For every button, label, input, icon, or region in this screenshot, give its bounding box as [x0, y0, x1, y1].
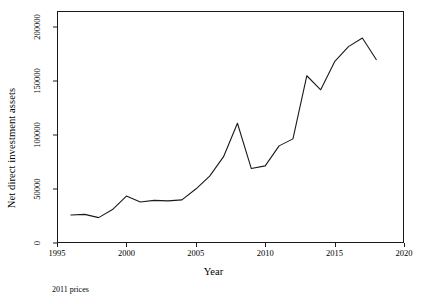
x-axis-label: Year	[0, 266, 427, 277]
chart-figure: Net direct investment assets 19952000200…	[0, 0, 427, 304]
x-tick-label: 1995	[49, 248, 66, 258]
x-tick-mark	[196, 243, 197, 247]
x-tick-mark	[404, 243, 405, 247]
chart-note: 2011 prices	[52, 285, 89, 294]
x-tick-label: 2000	[118, 248, 135, 258]
y-tick-label: 50000	[22, 184, 52, 194]
x-tick-label: 2015	[326, 248, 343, 258]
y-tick-mark	[53, 243, 57, 244]
x-tick-mark	[126, 243, 127, 247]
x-tick-label: 2005	[187, 248, 204, 258]
y-tick-label: 0	[22, 238, 52, 248]
y-axis-label: Net direct investment assets	[6, 28, 20, 268]
y-tick-label: 200000	[22, 22, 52, 32]
y-tick-mark	[53, 189, 57, 190]
y-tick-mark	[53, 27, 57, 28]
x-tick-mark	[57, 243, 58, 247]
x-tick-mark	[335, 243, 336, 247]
y-tick-mark	[53, 135, 57, 136]
y-tick-mark	[53, 81, 57, 82]
line-series	[57, 11, 404, 243]
y-tick-label: 100000	[22, 130, 52, 140]
y-tick-label: 150000	[22, 76, 52, 86]
x-tick-mark	[265, 243, 266, 247]
x-tick-label: 2010	[257, 248, 274, 258]
x-tick-label: 2020	[396, 248, 413, 258]
plot-area-wrapper: 1995200020052010201520200500001000001500…	[57, 11, 404, 243]
